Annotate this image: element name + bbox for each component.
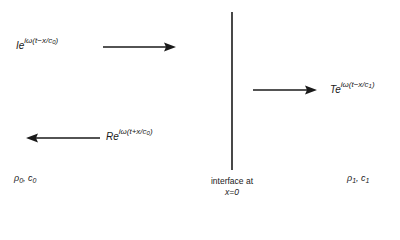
incident-exponent: iω(t−x/c0)	[24, 36, 58, 45]
transmitted-wave-label: Teiω(t−x/c1)	[330, 80, 375, 95]
reflected-arrow-icon	[26, 134, 100, 143]
transmitted-arrow-icon	[253, 86, 317, 95]
interface-label: interface at x=0	[192, 176, 272, 198]
reflected-exponent: iω(t+x/c0)	[119, 127, 153, 136]
reflected-wave-label: Reiω(t+x/c0)	[106, 127, 153, 142]
left-medium-label: ρ0, c0	[14, 173, 36, 184]
right-medium-label: ρ1, c1	[347, 173, 369, 184]
incident-arrow-icon	[103, 43, 176, 52]
incident-wave-label: Ieiω(t−x/c0)	[16, 36, 58, 51]
transmitted-exponent: iω(t−x/c1)	[341, 80, 375, 89]
